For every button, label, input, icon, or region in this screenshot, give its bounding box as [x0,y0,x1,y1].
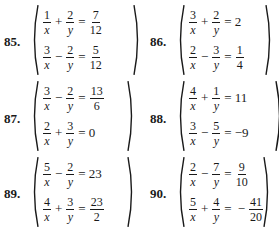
equation: 4x+1y=11 [188,83,247,113]
operator: + [55,201,62,217]
equals-sign: = [78,125,85,141]
equation: 2x−7y=910 [188,159,249,189]
numerator: 9 [238,161,246,175]
denominator: 4 [237,58,243,71]
term-y: 2y [212,9,220,36]
problem: 89. 5x−2y=234x+3y=232 [0,156,139,232]
operator: + [201,90,208,106]
denominator: 20 [250,210,262,223]
denominator: y [214,23,219,36]
denominator: x [190,99,195,112]
term-y: 3y [66,120,74,147]
equals-sign: = [224,125,231,141]
denominator: y [68,58,73,71]
numerator: 2 [66,161,74,175]
numerator: 23 [90,196,104,210]
term-x: 2x [189,161,197,188]
equals-sign: = [78,201,85,217]
term-x: 4x [43,196,51,223]
numerator: 5 [92,44,100,58]
term-y: 2y [66,161,74,188]
operator: − [201,125,208,141]
numerator: 3 [189,9,197,23]
left-parenthesis [30,156,40,228]
numerator: 2 [66,44,74,58]
equation: 3x−5y=−9 [188,118,249,148]
equation-system: 4x+1y=113x−5y=−9 [176,80,279,152]
numerator: 1 [236,44,244,58]
equation-system: 5x−2y=234x+3y=232 [30,156,136,228]
equals-sign: = [78,90,85,106]
right-parenthesis [264,4,274,76]
equals-sign: = [224,201,231,217]
numerator: 3 [212,44,220,58]
problem: 85. 1x+2y=7123x−2y=512 [0,4,139,80]
denominator: y [68,99,73,112]
equals-sign: = [78,14,85,30]
rhs-fraction: 232 [90,196,104,223]
numerator: 41 [249,196,263,210]
rhs-value: −9 [235,125,249,141]
denominator: 10 [236,175,248,188]
operator: − [55,90,62,106]
left-parenthesis [30,80,40,152]
denominator: x [190,210,195,223]
denominator: 12 [90,23,102,36]
rhs-value: 23 [89,166,102,182]
operator: + [55,125,62,141]
numerator: 3 [43,85,51,99]
equation-system: 3x−2y=1362x+3y=0 [30,80,136,152]
denominator: y [214,134,219,147]
term-x: 1x [43,9,51,36]
problem-number: 86. [150,34,166,50]
numerator: 2 [189,44,197,58]
term-y: 4y [212,196,220,223]
equation-system: 3x+2y=22x−3y=14 [176,4,274,76]
equation: 1x+2y=712 [42,7,103,37]
equation: 2x−3y=14 [188,42,245,72]
right-parenthesis [126,156,136,228]
denominator: x [44,23,49,36]
term-y: 7y [212,161,220,188]
operator: − [201,49,208,65]
term-y: 2y [66,9,74,36]
denominator: y [68,134,73,147]
problem: 88. 4x+1y=113x−5y=−9 [140,80,279,156]
denominator: 12 [90,58,102,71]
operator: + [201,14,208,30]
denominator: y [214,210,219,223]
term-x: 3x [43,85,51,112]
denominator: x [44,58,49,71]
operator: + [55,14,62,30]
problem-number: 89. [4,186,20,202]
rhs-fraction: 4120 [249,196,263,223]
operator: + [201,201,208,217]
problem: 87. 3x−2y=1362x+3y=0 [0,80,139,156]
denominator: y [68,175,73,188]
term-y: 5y [212,120,220,147]
numerator: 4 [189,85,197,99]
right-parenthesis [126,80,136,152]
denominator: x [190,23,195,36]
term-y: 3y [212,44,220,71]
operator: − [201,166,208,182]
term-x: 4x [189,85,197,112]
denominator: y [214,58,219,71]
numerator: 1 [212,85,220,99]
denominator: x [190,134,195,147]
equation: 3x+2y=2 [188,7,241,37]
term-y: 2y [66,44,74,71]
numerator: 2 [212,9,220,23]
term-x: 3x [43,44,51,71]
rhs-fraction: 512 [90,44,102,71]
numerator: 7 [212,161,220,175]
equals-sign: = [224,90,231,106]
numerator: 3 [189,120,197,134]
equation-system: 1x+2y=7123x−2y=512 [30,4,142,76]
denominator: y [68,210,73,223]
term-x: 3x [189,9,197,36]
operator: − [55,166,62,182]
term-x: 2x [189,44,197,71]
problem: 86. 3x+2y=22x−3y=14 [140,4,279,80]
term-y: 2y [66,85,74,112]
